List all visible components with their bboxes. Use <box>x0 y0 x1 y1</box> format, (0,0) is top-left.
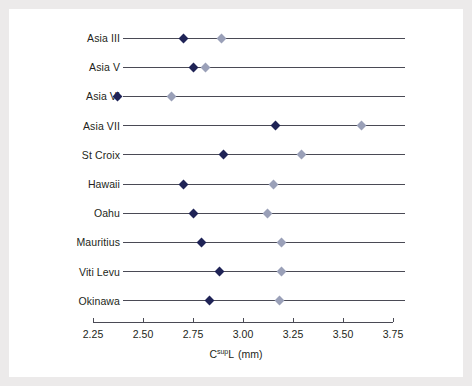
data-point-light <box>276 267 286 277</box>
data-point-dark <box>188 62 198 72</box>
x-tick <box>293 318 294 322</box>
data-point-light <box>166 91 176 101</box>
category-label: Hawaii <box>34 176 120 192</box>
chart-row: Asia III <box>0 30 472 46</box>
data-point-dark <box>188 208 198 218</box>
category-label: St Croix <box>34 147 120 163</box>
x-tick <box>393 318 394 322</box>
data-point-light <box>274 296 284 306</box>
chart-row: Asia VI <box>0 88 472 104</box>
chart-row: Okinawa <box>0 293 472 309</box>
x-tick-label: 2.50 <box>123 328 163 340</box>
data-point-light <box>262 208 272 218</box>
category-baseline <box>123 242 405 243</box>
chart-row: Hawaii <box>0 176 472 192</box>
x-tick-label: 3.50 <box>323 328 363 340</box>
data-point-light <box>216 33 226 43</box>
chart-row: Asia VII <box>0 118 472 134</box>
data-point-light <box>200 62 210 72</box>
category-label: Viti Levu <box>34 264 120 280</box>
category-label: Asia VI <box>34 88 120 104</box>
category-label: Asia V <box>34 59 120 75</box>
x-tick-label: 3.00 <box>223 328 263 340</box>
category-baseline <box>123 184 405 185</box>
data-point-dark <box>204 296 214 306</box>
category-baseline <box>123 154 405 155</box>
category-label: Asia VII <box>34 118 120 134</box>
data-point-light <box>296 150 306 160</box>
data-point-light <box>268 179 278 189</box>
chart-row: St Croix <box>0 147 472 163</box>
category-label: Okinawa <box>34 293 120 309</box>
x-axis-line <box>93 322 393 323</box>
data-point-dark <box>214 267 224 277</box>
chart-figure: Asia IIIAsia VAsia VIAsia VIISt CroixHaw… <box>0 0 472 386</box>
x-tick <box>243 318 244 322</box>
x-axis-label: CsupL(mm) <box>0 348 472 360</box>
plot-area: Asia IIIAsia VAsia VIAsia VIISt CroixHaw… <box>0 0 472 386</box>
x-tick-label: 3.25 <box>273 328 313 340</box>
data-point-dark <box>178 33 188 43</box>
chart-row: Viti Levu <box>0 264 472 280</box>
chart-row: Asia V <box>0 59 472 75</box>
category-label: Mauritius <box>34 234 120 250</box>
data-point-dark <box>196 237 206 247</box>
category-label: Oahu <box>34 205 120 221</box>
data-point-light <box>276 237 286 247</box>
x-tick <box>143 318 144 322</box>
data-point-light <box>356 121 366 131</box>
x-tick <box>343 318 344 322</box>
category-baseline <box>123 38 405 39</box>
x-tick-label: 3.75 <box>373 328 413 340</box>
data-point-dark <box>270 121 280 131</box>
x-tick-label: 2.25 <box>73 328 113 340</box>
chart-row: Oahu <box>0 205 472 221</box>
x-tick <box>93 318 94 322</box>
category-baseline <box>123 300 405 301</box>
x-tick-label: 2.75 <box>173 328 213 340</box>
category-baseline <box>123 67 405 68</box>
category-baseline <box>123 271 405 272</box>
category-label: Asia III <box>34 30 120 46</box>
data-point-dark <box>218 150 228 160</box>
chart-row: Mauritius <box>0 234 472 250</box>
data-point-dark <box>178 179 188 189</box>
x-tick <box>193 318 194 322</box>
